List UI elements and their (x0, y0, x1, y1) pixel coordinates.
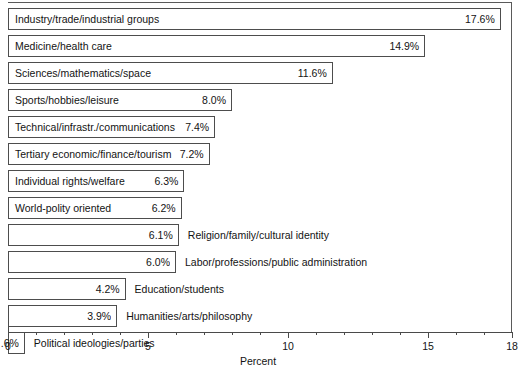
bar-row: Tertiary economic/finance/tourism7.2% (8, 143, 522, 165)
x-axis-tick-minor (316, 332, 317, 335)
bar-row: Industry/trade/industrial groups17.6% (8, 8, 522, 30)
bar-row: 6.0%Labor/professions/public administrat… (8, 251, 496, 273)
x-axis-tick-minor (176, 332, 177, 335)
bar-category-label: Individual rights/welfare (15, 170, 125, 192)
bar-row: .6%Political ideologies/parties (8, 332, 345, 354)
bar-category-label: Sports/hobbies/leisure (15, 89, 119, 111)
bar-category-label: Technical/infrastr./communications (15, 116, 175, 138)
bar-row: Individual rights/welfare6.3% (8, 170, 504, 192)
x-axis-tick-minor (456, 332, 457, 335)
bar-value-label: 14.9% (383, 35, 419, 57)
bar-category-label: World-polity oriented (15, 197, 111, 219)
x-axis-tick-major (8, 332, 9, 338)
bar-value-label: 6.1% (137, 224, 173, 246)
x-axis-tick-label: 18 (506, 340, 518, 352)
x-axis-tick-minor (120, 332, 121, 335)
x-axis-tick-major (148, 332, 149, 338)
bar-value-label: 11.6% (291, 62, 327, 84)
bar-category-label: Industry/trade/industrial groups (15, 8, 159, 30)
bar-category-label: Political ideologies/parties (34, 332, 155, 354)
bar-row: Sciences/mathematics/space11.6% (8, 62, 522, 84)
bar-category-label: Medicine/health care (15, 35, 112, 57)
bar-row: 4.2%Education/students (8, 278, 446, 300)
x-axis-title: Percent (0, 355, 516, 367)
x-axis-tick-label: 0 (5, 340, 11, 352)
bar-row: 6.1%Religion/family/cultural identity (8, 224, 499, 246)
x-axis-tick-minor (260, 332, 261, 335)
x-axis-tick-major (512, 332, 513, 338)
bar-value-label: 8.0% (190, 89, 226, 111)
x-axis-tick-minor (36, 332, 37, 335)
x-axis-tick-label: 5 (145, 340, 151, 352)
bar-row: 3.9%Humanities/arts/philosophy (8, 305, 437, 327)
bar-value-label: 7.4% (173, 116, 209, 138)
bar-category-label: Labor/professions/public administration (185, 251, 367, 273)
x-axis-tick-major (288, 332, 289, 338)
bar-row: Technical/infrastr./communications7.4% (8, 116, 522, 138)
x-axis-tick-minor (92, 332, 93, 335)
x-axis-tick-minor (344, 332, 345, 335)
x-axis-tick-label: 15 (422, 340, 434, 352)
bar-row: Sports/hobbies/leisure8.0% (8, 89, 522, 111)
x-axis-tick-minor (372, 332, 373, 335)
bar-value-label: 6.0% (134, 251, 170, 273)
bar-value-label: 7.2% (168, 143, 204, 165)
bar-category-label: Sciences/mathematics/space (15, 62, 151, 84)
bar-row: Medicine/health care14.9% (8, 35, 522, 57)
x-axis-tick-minor (232, 332, 233, 335)
bar-category-label: Tertiary economic/finance/tourism (15, 143, 171, 165)
bar-value-label: 6.2% (140, 197, 176, 219)
x-axis-tick-major (428, 332, 429, 338)
bar-value-label: 17.6% (459, 8, 495, 30)
bar-category-label: Religion/family/cultural identity (188, 224, 329, 246)
x-axis-tick-minor (484, 332, 485, 335)
x-axis-tick-label: 10 (282, 340, 294, 352)
bar-category-label: Education/students (135, 278, 224, 300)
bar-row: World-polity oriented6.2% (8, 197, 502, 219)
x-axis-tick-minor (64, 332, 65, 335)
bar-value-label: 4.2% (84, 278, 120, 300)
bar-value-label: 6.3% (142, 170, 178, 192)
bar-category-label: Humanities/arts/philosophy (126, 305, 252, 327)
bar-series: Industry/trade/industrial groups17.6%Med… (0, 0, 516, 330)
x-axis-tick-minor (400, 332, 401, 335)
bar-value-label: 3.9% (75, 305, 111, 327)
x-axis-tick-minor (204, 332, 205, 335)
